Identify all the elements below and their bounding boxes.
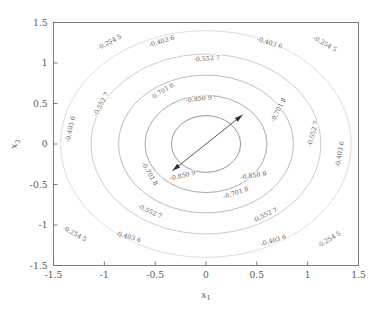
contour-label: -0.850 9 xyxy=(185,93,212,103)
contour-label: -0.403 6 xyxy=(334,141,345,168)
annotation-arrow-head xyxy=(172,164,180,171)
contour-label: -0.403 6 xyxy=(260,233,287,247)
contour-label: -0.254 5 xyxy=(312,34,338,53)
x-axis-tick-label: -0.5 xyxy=(146,269,164,280)
x-axis-tick-label: 1.5 xyxy=(351,269,366,280)
x-axis-title: x1 xyxy=(201,289,210,303)
y-axis-tick-label: 0.5 xyxy=(33,98,48,109)
x-axis-tick-label: -1 xyxy=(100,269,109,280)
y-axis-title: x2 xyxy=(8,139,22,148)
contour-label: -0.701 8 xyxy=(269,96,287,122)
y-axis-tick-label: 1.5 xyxy=(33,17,48,28)
contour-label: -0.254 5 xyxy=(316,229,342,248)
x-axis-tick-label: 1 xyxy=(305,269,311,280)
contour-labels-group: -0.254 5-0.254 5-0.254 5-0.254 5-0.254 5… xyxy=(62,33,345,249)
y-axis-tick-label: 0 xyxy=(42,138,48,149)
contour-label: -0.850 9 xyxy=(240,170,267,181)
contour-label: -0.254 5 xyxy=(96,33,122,51)
contour-plot-figure: -0.254 5-0.254 5-0.254 5-0.254 5-0.254 5… xyxy=(0,0,390,312)
contour-label: -0.552 7 xyxy=(137,202,164,219)
y-axis-tick-label: -0.5 xyxy=(30,179,48,190)
contour-label: -0.552 7 xyxy=(91,91,109,117)
y-axis-tick-label: -1.5 xyxy=(30,260,48,271)
x-axis-tick-label: 0.5 xyxy=(250,269,265,280)
y-axis-tick-label: -1 xyxy=(39,219,48,230)
contour-label: -0.701 8 xyxy=(149,81,175,101)
contour-label: -0.552 7 xyxy=(305,120,319,147)
contour-label: -0.254 5 xyxy=(62,224,88,242)
x-axis-tick-label: 0 xyxy=(203,269,209,280)
plot-canvas: -0.254 5-0.254 5-0.254 5-0.254 5-0.254 5… xyxy=(0,0,390,312)
contour-label: -0.403 6 xyxy=(115,229,142,243)
y-axis-tick-label: 1 xyxy=(42,57,48,68)
contour-label: -0.552 7 xyxy=(194,54,221,63)
contour-label: -0.403 6 xyxy=(64,115,76,142)
annotation-arrow-head xyxy=(235,115,243,122)
contour-label: -0.403 6 xyxy=(256,35,283,49)
